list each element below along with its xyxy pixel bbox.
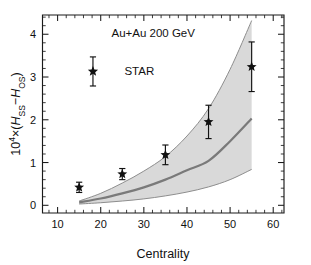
x-tick-label: 20 (95, 218, 107, 230)
chart-svg: 102030405060 01234 Centrality 104×(HSS−H… (0, 0, 311, 265)
x-tick-label: 60 (267, 218, 279, 230)
x-tick-label: 40 (181, 218, 193, 230)
x-axis-title: Centrality (137, 247, 191, 261)
ylabel-minus: − (9, 98, 23, 105)
y-tick-label: 2 (30, 114, 36, 126)
annotation-star-legend: STAR (124, 65, 154, 77)
ylabel-close-paren: ) (9, 72, 23, 76)
x-tick-label: 30 (138, 218, 150, 230)
ylabel-times: × (9, 130, 23, 137)
x-tick-label: 50 (224, 218, 236, 230)
y-tick-label: 0 (30, 199, 36, 211)
ylabel-sub1: SS (17, 105, 27, 117)
ylabel-sub2: OS (17, 76, 27, 89)
chart-background (0, 0, 311, 265)
ylabel-prefix: 10 (9, 142, 23, 156)
y-tick-label: 1 (30, 157, 36, 169)
chart-figure: 102030405060 01234 Centrality 104×(HSS−H… (0, 0, 311, 265)
x-tick-label: 10 (51, 218, 63, 230)
y-tick-label: 3 (30, 71, 36, 83)
y-tick-label: 4 (30, 28, 36, 40)
annotation-system-energy: Au+Au 200 GeV (112, 27, 196, 39)
